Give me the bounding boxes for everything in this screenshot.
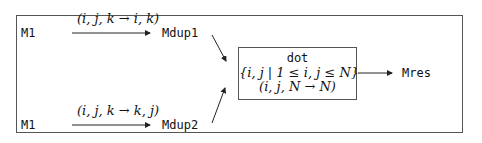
operation-name: dot <box>239 51 356 65</box>
dot-operation-box: dot {i, j | 1 ≤ i, j ≤ N} (i, j, N → N) <box>238 47 357 100</box>
operation-domain: {i, j | 1 ≤ i, j ≤ N} <box>239 65 356 80</box>
operation-mapping: (i, j, N → N) <box>239 79 356 94</box>
mapping-top: (i, j, k → i, k) <box>77 11 159 26</box>
arrow-mdup1-to-dot <box>212 35 226 61</box>
source-m1-top: M1 <box>21 26 35 40</box>
arrow-mdup2-to-dot <box>212 88 225 123</box>
target-mdup2: Mdup2 <box>162 118 198 132</box>
source-m1-bottom: M1 <box>21 118 35 132</box>
target-mdup1: Mdup1 <box>162 26 198 40</box>
output-mres: Mres <box>402 66 431 80</box>
mapping-bottom: (i, j, k → k, j) <box>77 103 159 118</box>
